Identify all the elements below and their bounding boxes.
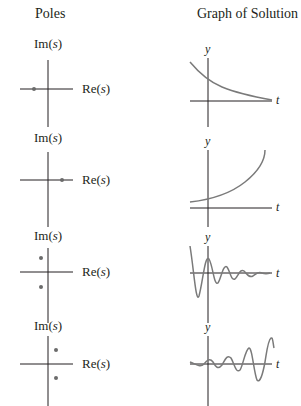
solution-graph-3 [190, 246, 272, 323]
damped-oscillation-curve [190, 246, 270, 297]
growing-oscillation-curve [190, 338, 274, 381]
y-axis-label: y [205, 230, 210, 245]
re-axis-label: Re(s) [82, 81, 110, 97]
pole-dot [39, 256, 43, 260]
t-axis-label: t [276, 266, 279, 281]
graph-of-solution-header: Graph of Solution [197, 6, 298, 22]
row-decay: Im(s) Re(s) y t [0, 30, 301, 127]
solution-graph-2 [190, 150, 272, 227]
pole-plane-3 [20, 248, 73, 323]
re-axis-label: Re(s) [82, 264, 110, 280]
growth-curve [190, 150, 265, 202]
decay-curve [190, 62, 272, 100]
t-axis-label: t [276, 200, 279, 215]
solution-graph-1 [190, 58, 272, 127]
pole-dot [54, 376, 58, 380]
re-axis-label: Re(s) [82, 172, 110, 188]
im-axis-label: Im(s) [34, 228, 62, 244]
y-axis-label: y [205, 320, 210, 335]
pole-plane-2 [20, 152, 73, 227]
pole-dot [60, 178, 64, 182]
re-axis-label: Re(s) [82, 356, 110, 372]
pole-dot [39, 285, 43, 289]
y-axis-label: y [205, 134, 210, 149]
pole-plane-4 [20, 336, 73, 406]
pole-dot [32, 87, 36, 91]
t-axis-label: t [276, 93, 279, 108]
row-damped-oscillation: Im(s) Re(s) y t [0, 226, 301, 323]
im-axis-label: Im(s) [34, 318, 62, 334]
poles-header: Poles [35, 6, 65, 22]
solution-graph-4 [190, 336, 274, 406]
im-axis-label: Im(s) [34, 130, 62, 146]
pole-dot [54, 348, 58, 352]
y-axis-label: y [205, 42, 210, 57]
im-axis-label: Im(s) [34, 36, 62, 52]
row-growth: Im(s) Re(s) y t [0, 130, 301, 227]
row-growing-oscillation: Im(s) Re(s) y t [0, 318, 301, 406]
pole-plane-1 [20, 60, 73, 127]
t-axis-label: t [276, 357, 279, 372]
